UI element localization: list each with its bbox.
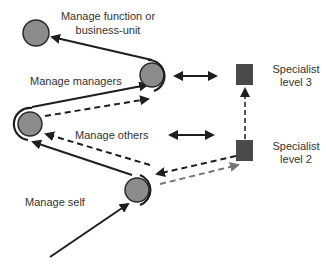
self-to-others-arrow — [33, 142, 132, 175]
specialist-level-2-square — [236, 140, 253, 161]
self-to-spec2-dashed-arrow — [160, 165, 238, 184]
label-manage-managers: Manage managers — [30, 75, 122, 87]
label-specialist-3-line2: level 3 — [280, 76, 312, 88]
entry-arrow — [50, 204, 128, 257]
others-to-managers-arrow — [32, 85, 147, 107]
label-specialist-3-line1: Specialist — [272, 63, 319, 75]
spec2-to-self-dashed-arrow — [157, 156, 236, 174]
label-manage-function-line1: Manage function or — [61, 10, 156, 22]
specialist-level-3-square — [236, 64, 253, 85]
career-path-diagram: Manage function or business-unit Manage … — [0, 0, 326, 272]
node-manage-self — [125, 175, 150, 205]
node-manage-others — [14, 108, 42, 140]
label-manage-others: Manage others — [75, 129, 149, 141]
managers-to-function-arrow — [52, 37, 152, 60]
label-manage-self: Manage self — [25, 196, 86, 208]
manage-self-circle — [125, 178, 149, 202]
lateral-moves — [170, 76, 216, 135]
label-specialist-2-line1: Specialist — [272, 140, 319, 152]
node-manage-function — [23, 20, 49, 46]
label-specialist-2-line2: level 2 — [280, 153, 312, 165]
label-manage-function-line2: business-unit — [76, 24, 141, 36]
manage-function-circle — [23, 20, 49, 46]
manage-others-circle — [18, 112, 42, 136]
